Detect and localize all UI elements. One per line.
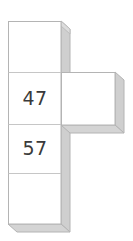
face-label-47: 47	[8, 72, 62, 124]
right-square-bottom-face	[61, 125, 124, 133]
right-square-side-face	[115, 72, 124, 133]
face-label-57: 57	[8, 124, 62, 173]
column-bottom-face	[8, 224, 70, 232]
cube-net-figure: 47 57	[0, 0, 133, 241]
right-square-front-fill	[62, 72, 115, 125]
